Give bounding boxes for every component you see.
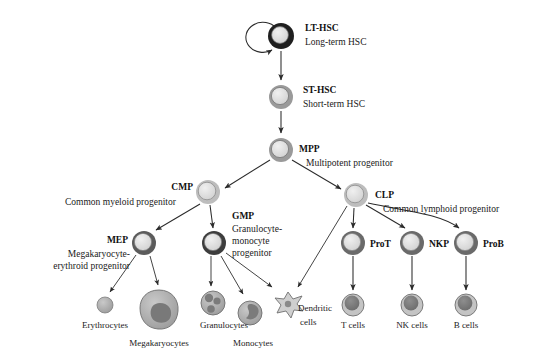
node-cmp[interactable] [196, 180, 220, 204]
nkp-body [402, 233, 419, 250]
clp-body [346, 185, 364, 203]
node-gmp[interactable] [202, 231, 226, 255]
node-lt-hsc[interactable] [268, 23, 294, 49]
edge-mep-to-megakaryocytes [150, 256, 158, 285]
gmp-body [204, 233, 221, 250]
mep-body [134, 233, 151, 250]
label-mep-sub2: erythroid progenitor [53, 261, 131, 271]
label-cmp: CMP [171, 182, 193, 192]
cell-granulocytes[interactable] [201, 291, 225, 315]
label-t-cells: T cells [341, 320, 366, 330]
erythrocyte-body [97, 297, 113, 313]
label-megakaryocytes: Megakaryocytes [129, 338, 189, 348]
label-gmp-sub1: Granulocyte- [232, 224, 282, 234]
label-mpp-sub: Multipotent progenitor [306, 158, 394, 168]
label-dendritic-cells-line2: cells [300, 317, 317, 327]
label-b-cells: B cells [454, 320, 479, 330]
edge-gmp-to-monocytes [221, 256, 243, 294]
label-erythrocytes: Erythrocytes [82, 320, 128, 330]
label-mep-sub1: Megakaryocyte- [68, 249, 130, 259]
node-mpp[interactable] [269, 138, 293, 162]
label-gmp-sub3: progenitor [232, 248, 272, 258]
label-gmp-sub2: monocyte [232, 236, 269, 246]
label-nkp: NKP [429, 239, 449, 249]
label-mpp: MPP [299, 144, 320, 154]
edge-mpp-to-cmp [225, 160, 270, 188]
lt-hsc-body [272, 27, 289, 44]
megakaryocyte-nucleus [151, 303, 172, 323]
node-clp[interactable] [344, 183, 368, 207]
label-prob: ProB [483, 239, 505, 249]
label-gmp: GMP [232, 211, 254, 221]
cmp-body [198, 182, 216, 200]
label-nk-cells: NK cells [396, 320, 428, 330]
label-prot: ProT [370, 239, 392, 249]
granulocyte-lobe-1 [205, 294, 213, 302]
granulocyte-lobe-3 [207, 305, 215, 313]
cell-erythrocytes[interactable] [97, 297, 113, 313]
label-granulocytes: Granulocytes [200, 320, 248, 330]
label-cmp-sub: Common myeloid progenitor [65, 197, 177, 207]
cell-t-cells[interactable] [342, 294, 364, 316]
label-mep: MEP [107, 235, 128, 245]
label-monocytes: Monocytes [233, 338, 273, 348]
label-dendritic-cells: Dendritic [298, 303, 332, 313]
node-nkp[interactable] [400, 231, 424, 255]
b-cell-nucleus [458, 296, 473, 311]
edge-gmp-to-dendritic [226, 253, 272, 287]
label-lt-hsc-sub: Long-term HSC [305, 37, 366, 47]
diagram-canvas: LT-HSC Long-term HSC ST-HSC Short-term H… [0, 0, 538, 358]
edge-cmp-to-gmp [210, 205, 213, 228]
dendritic-nucleus [285, 301, 291, 307]
label-lt-hsc: LT-HSC [305, 23, 339, 33]
node-prob[interactable] [454, 231, 478, 255]
node-st-hsc[interactable] [269, 85, 293, 109]
prob-body [456, 233, 473, 250]
label-clp: CLP [375, 190, 394, 200]
t-cell-nucleus [345, 296, 360, 311]
st-hsc-body [271, 87, 288, 104]
edge-clp-to-dendritic [298, 206, 347, 287]
label-clp-sub: Common lymphoid progenitor [383, 204, 500, 214]
granulocyte-lobe-2 [213, 297, 220, 304]
edge-cmp-to-mep [156, 204, 200, 230]
label-st-hsc-sub: Short-term HSC [303, 99, 365, 109]
nk-cell-nucleus [404, 296, 419, 311]
label-st-hsc: ST-HSC [303, 85, 337, 95]
cell-nk-cells[interactable] [401, 294, 423, 316]
node-prot[interactable] [341, 231, 365, 255]
cell-megakaryocytes[interactable] [140, 290, 178, 329]
mpp-body [271, 140, 288, 157]
edge-clp-to-prot [353, 208, 354, 228]
prot-body [343, 233, 360, 250]
node-mep[interactable] [132, 231, 156, 255]
cell-b-cells[interactable] [455, 294, 477, 316]
hematopoiesis-figure: LT-HSC Long-term HSC ST-HSC Short-term H… [0, 0, 538, 358]
